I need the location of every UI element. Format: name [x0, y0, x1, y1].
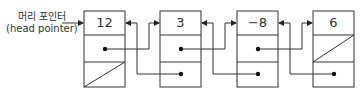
node-3-value: −8: [237, 15, 278, 30]
linked-list-diagram: [0, 0, 361, 92]
node-1-value: 12: [84, 15, 125, 30]
node-4-value: 6: [313, 15, 354, 30]
node-2-value: 3: [160, 15, 201, 30]
